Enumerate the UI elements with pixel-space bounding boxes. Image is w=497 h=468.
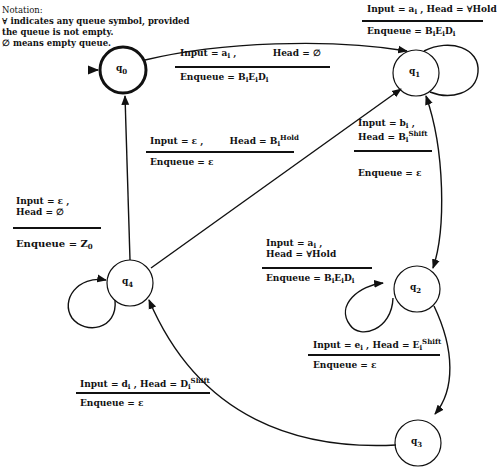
notation-line-1: ∀ indicates any queue symbol, provided [2,16,189,27]
label-q3-q4-condition: Input = di , Head = DiShift [80,376,210,392]
notation-block: Notation: ∀ indicates any queue symbol, … [2,5,189,49]
notation-line-2: the queue is not empty. [2,27,189,38]
edge-q2-self [345,283,393,332]
label-q3-q4-divider [76,392,210,394]
notation-title: Notation: [2,5,189,16]
label-q1-self-enqueue: Enqueue = BiEiDi [367,26,455,39]
label-q1-q2-head: Head = BiShift [358,129,428,145]
state-q1-label: q1 [409,66,420,79]
label-q1-q2-enqueue: Enqueue = ε [358,168,422,178]
label-q4-q1-condition: Input = ε , Head = BiHold [150,133,299,149]
label-q4-q0-input: Input = ε , [16,196,69,206]
label-q2-q3-divider [308,354,440,356]
label-q1-self-condition: Input = ai , Head = ∀Hold [367,4,497,17]
state-q0-label: q0 [116,63,127,76]
edge-q1-self [424,45,478,95]
label-q0-q1-divider [175,66,330,68]
edge-q2-q3 [434,306,450,414]
state-q4-label: q4 [122,276,133,289]
label-q0-q1-enqueue: Enqueue = BiEiDi [180,72,268,85]
label-q4-q0-head: Head = ∅ [16,207,64,217]
edge-q4-self [68,279,115,327]
label-q0-q1-condition: Input = ai , Head = ∅ [180,48,321,61]
label-q4-q0-divider [13,227,101,229]
label-q4-q0-enqueue: Enqueue = Z0 [16,239,93,252]
label-q2-self-enqueue: Enqueue = BiEiDi [266,273,354,286]
edge-q4-q0 [125,96,130,260]
label-q2-self-divider [262,267,372,269]
label-q4-q1-divider [146,151,294,153]
state-q2-label: q2 [410,282,421,295]
state-q3-label: q3 [411,436,422,449]
edge-q3-q4 [149,300,396,446]
label-q3-q4-enqueue: Enqueue = ε [80,398,144,408]
notation-line-3: ∅ means empty queue. [2,38,189,49]
label-q4-q1-enqueue: Enqueue = ε [150,157,214,167]
label-q1-self-divider [362,20,483,22]
label-q2-q3-enqueue: Enqueue = ε [313,360,377,370]
edge-q1-q2 [426,96,442,268]
label-q2-self-head: Head = ∀Hold [266,249,336,259]
label-q1-q2-divider [354,150,432,152]
label-q2-q3-condition: Input = ei , Head = EiShift [313,337,441,353]
